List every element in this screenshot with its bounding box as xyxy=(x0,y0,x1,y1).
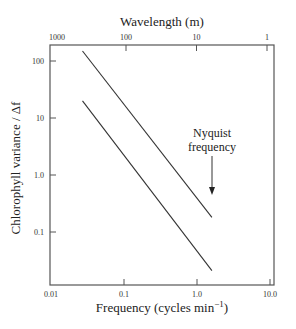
top-axis-title: Wavelength (m) xyxy=(120,14,204,29)
top-tick-label: 100 xyxy=(120,33,132,42)
series-lines xyxy=(83,51,212,271)
x-tick-label: 0.01 xyxy=(44,290,58,299)
y-axis-title: Chlorophyll variance / Δf xyxy=(8,101,23,235)
y-tick-label: 100 xyxy=(32,57,44,66)
top-axis-ticks: 1000100101 xyxy=(49,33,269,51)
top-tick-label: 1 xyxy=(265,33,269,42)
x-axis-title-main: Frequency (cycles min xyxy=(96,300,215,315)
x-tick-label: 10.0 xyxy=(263,290,277,299)
x-tick-label: 0.1 xyxy=(119,290,129,299)
plot-frame xyxy=(50,45,274,285)
y-tick-label: 1.0 xyxy=(34,171,44,180)
chart: Wavelength (m) 1000100101 0.010.11.010.0… xyxy=(0,0,296,329)
bottom-axis-ticks: 0.010.11.010.0 xyxy=(44,279,277,299)
x-axis-title: Frequency (cycles min−1) xyxy=(96,299,228,315)
y-tick-label: 0.1 xyxy=(34,228,44,237)
x-tick-label: 1.0 xyxy=(192,290,202,299)
x-axis-title-superscript: −1 xyxy=(214,299,224,309)
nyquist-label-line2: frequency xyxy=(188,140,236,154)
y-tick-label: 10 xyxy=(36,114,44,123)
nyquist-arrow-icon xyxy=(209,187,215,195)
x-axis-title-end: ) xyxy=(224,300,228,315)
top-tick-label: 10 xyxy=(193,33,201,42)
left-axis-ticks: 0.11.010100 xyxy=(32,57,56,237)
top-tick-label: 1000 xyxy=(49,33,65,42)
nyquist-label-line1: Nyquist xyxy=(193,126,232,140)
